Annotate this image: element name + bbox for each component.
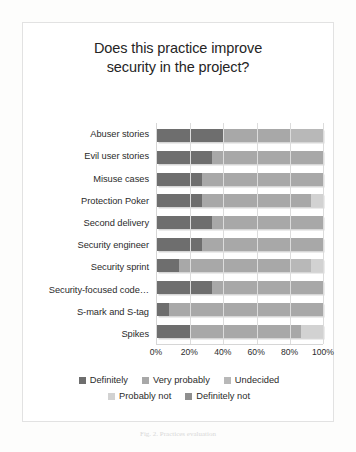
legend-label: Definitely [90,375,128,385]
bar-series-container [157,123,323,344]
category-label: Evil user stories [31,145,153,167]
x-tick-label: 20% [181,347,198,357]
bar-segment [157,303,169,316]
legend-label: Probably not [119,391,171,401]
category-label: Spikes [31,323,153,345]
legend-swatch-icon [142,377,149,384]
bar-row [157,259,323,272]
bar-segment [311,259,323,272]
legend-label: Undecided [235,375,279,385]
x-tick-label: 40% [214,347,231,357]
plot-area: Abuser storiesEvil user storiesMisuse ca… [23,119,335,369]
x-tick-label: 80% [281,347,298,357]
bar-segment [212,151,323,164]
legend-swatch-icon [185,393,192,400]
bar-row [157,151,323,164]
category-label: Security sprint [31,256,153,278]
bar-segment [301,325,323,338]
bar-segment [290,129,323,142]
bar-row [157,173,323,186]
category-label: Protection Poker [31,190,153,212]
bar-segment [157,238,202,251]
bar-row [157,281,323,294]
legend-swatch-icon [224,377,231,384]
category-axis: Abuser storiesEvil user storiesMisuse ca… [31,123,153,345]
bar-segment [169,303,323,316]
bar-row [157,238,323,251]
legend-swatch-icon [79,377,86,384]
category-label: S-mark and S-tag [31,301,153,323]
bar-segment [212,216,323,229]
legend-item[interactable]: Undecided [224,375,279,385]
bar-row [157,303,323,316]
category-label: Security engineer [31,234,153,256]
legend-label: Very probably [153,375,210,385]
x-axis: 0%20%40%60%80%100% [156,347,323,363]
gridline [190,123,191,344]
legend-label: Definitely not [196,391,250,401]
x-tick-label: 60% [248,347,265,357]
legend-row: DefinitelyVery probablyUndecided [23,375,335,385]
category-label: Abuser stories [31,123,153,145]
bar-segment [157,259,179,272]
bar-segment [190,325,301,338]
legend-item[interactable]: Very probably [142,375,210,385]
bar-segment [157,281,212,294]
bar-row [157,325,323,338]
category-label: Misuse cases [31,167,153,189]
bar-row [157,129,323,142]
legend-item[interactable]: Definitely [79,375,128,385]
bar-segment [179,259,290,272]
chart-title-line-1: Does this practice improve [49,39,307,58]
bar-segment [157,151,212,164]
bar-segment [212,281,323,294]
category-label: Security-focused code… [31,278,153,300]
bars-plot [156,123,323,345]
chart-legend: DefinitelyVery probablyUndecidedProbably… [23,375,335,407]
bar-segment [202,173,323,186]
bar-segment [311,194,323,207]
bar-segment [157,216,212,229]
figure-caption: Fig. 2. Practices evaluation [0,430,356,438]
chart-title-line-2: security in the project? [49,58,307,77]
gridline [290,123,291,344]
legend-item[interactable]: Definitely not [185,391,250,401]
gridline [323,123,324,344]
x-tick-label: 100% [312,347,334,357]
gridline [257,123,258,344]
bar-row [157,194,323,207]
category-label: Second delivery [31,212,153,234]
legend-item[interactable]: Probably not [108,391,171,401]
x-tick-label: 0% [150,347,162,357]
bar-segment [157,194,202,207]
chart-figure: Does this practice improve security in t… [22,22,334,422]
bar-segment [202,238,323,251]
legend-row: Probably notDefinitely not [23,391,335,401]
bar-segment [157,325,190,338]
chart-title: Does this practice improve security in t… [23,23,333,77]
bar-segment [157,173,202,186]
bar-row [157,216,323,229]
bar-segment [290,259,312,272]
gridline [223,123,224,344]
legend-swatch-icon [108,393,115,400]
